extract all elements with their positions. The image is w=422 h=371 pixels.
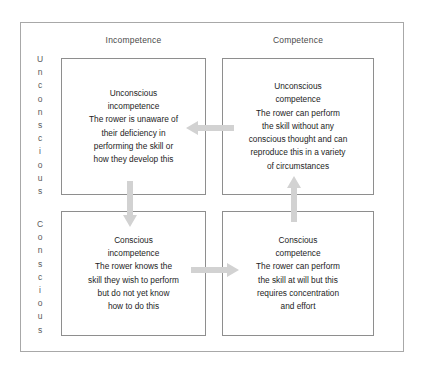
arrow-left-icon xyxy=(186,120,234,136)
quadrant-conscious-incompetence: Conscious incompetence The rower knows t… xyxy=(61,211,206,336)
row-label-letter: c xyxy=(32,79,48,92)
quadrant-unconscious-incompetence: Unconscious incompetence The rower is un… xyxy=(61,58,206,195)
row-label-letter: u xyxy=(32,172,48,185)
arrow-right-icon xyxy=(191,262,239,278)
row-label-letter: c xyxy=(32,271,48,284)
row-label-letter: s xyxy=(32,258,48,271)
row-label-letter: s xyxy=(32,119,48,132)
quadrant-conscious-competence: Conscious competence The rower can perfo… xyxy=(222,211,374,336)
row-label-letter: i xyxy=(32,284,48,297)
row-label-letter: n xyxy=(32,106,48,119)
arrow-down-icon xyxy=(122,181,138,227)
row-label-letter: o xyxy=(32,93,48,106)
column-header-competence: Competence xyxy=(222,35,374,45)
quadrant-text: Unconscious incompetence The rower is un… xyxy=(84,87,183,167)
row-label-letter: n xyxy=(32,66,48,79)
arrow-up-icon xyxy=(286,176,302,222)
row-label-letter: U xyxy=(32,53,48,66)
row-label-letter: u xyxy=(32,310,48,323)
row-label-letter: n xyxy=(32,244,48,257)
column-header-incompetence: Incompetence xyxy=(61,35,206,45)
row-label-letter: o xyxy=(32,231,48,244)
quadrant-text: Conscious competence The rower can perfo… xyxy=(251,234,345,314)
row-label-letter: o xyxy=(32,297,48,310)
quadrant-text: Conscious incompetence The rower knows t… xyxy=(83,234,184,314)
row-label-unconscious: U n c o n s c i o u s xyxy=(32,53,48,198)
quadrant-text: Unconscious competence The rower can per… xyxy=(244,80,353,173)
row-label-letter: i xyxy=(32,145,48,158)
row-label-letter: c xyxy=(32,132,48,145)
competence-matrix-diagram: Incompetence Competence U n c o n s c i … xyxy=(0,0,422,371)
row-label-letter: C xyxy=(32,218,48,231)
row-label-letter: s xyxy=(32,324,48,337)
row-label-letter: s xyxy=(32,185,48,198)
row-label-letter: o xyxy=(32,159,48,172)
quadrant-unconscious-competence: Unconscious competence The rower can per… xyxy=(222,58,374,195)
row-label-conscious: C o n s c i o u s xyxy=(32,218,48,337)
